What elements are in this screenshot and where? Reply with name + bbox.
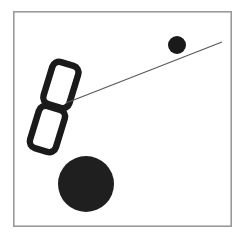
small-dot-circle [168,36,186,54]
figure-canvas: Tilted letter B with connector line and … [0,0,243,236]
large-dot-circle [58,156,114,212]
figure-root: Tilted letter B with connector line and … [0,0,243,236]
